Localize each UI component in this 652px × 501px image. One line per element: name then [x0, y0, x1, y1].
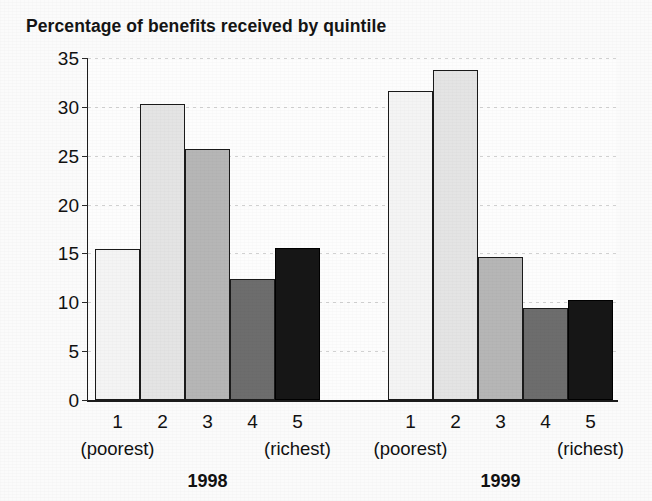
y-tick-15	[82, 253, 88, 254]
bar-1998-q5	[275, 248, 320, 400]
x-axis-category-1998-5: 5	[292, 412, 303, 431]
y-tick-35	[82, 58, 88, 59]
x-axis-line	[87, 400, 618, 402]
y-tick-20	[82, 205, 88, 206]
y-tick-25	[82, 156, 88, 157]
x-axis-note-1998-poorest: (poorest)	[80, 440, 154, 459]
y-tick-10	[82, 302, 88, 303]
x-axis-category-1999-4: 4	[540, 412, 551, 431]
x-axis-group-label-1999: 1999	[480, 472, 520, 490]
y-axis-label-20: 20	[33, 195, 79, 214]
x-axis-category-1998-4: 4	[247, 412, 258, 431]
y-axis-label-10: 10	[33, 293, 79, 312]
y-tick-30	[82, 107, 88, 108]
bar-1998-q1	[95, 249, 140, 400]
y-axis-label-25: 25	[33, 146, 79, 165]
x-axis-category-1999-3: 3	[495, 412, 506, 431]
x-axis-group-label-1998: 1998	[187, 472, 227, 490]
y-tick-0	[82, 400, 88, 401]
x-axis-category-1999-2: 2	[450, 412, 461, 431]
plot-area: 05101520253035	[88, 58, 617, 400]
bar-1999-q3	[478, 257, 523, 400]
y-axis-label-35: 35	[33, 49, 79, 68]
y-axis-label-5: 5	[33, 342, 79, 361]
x-axis-note-1999-poorest: (poorest)	[373, 440, 447, 459]
bar-1999-q4	[523, 308, 568, 400]
x-axis-note-1998-richest: (richest)	[264, 440, 331, 459]
x-axis-note-1999-richest: (richest)	[557, 440, 624, 459]
y-axis-label-0: 0	[33, 391, 79, 410]
x-axis-category-1998-3: 3	[202, 412, 213, 431]
y-tick-5	[82, 351, 88, 352]
chart-title: Percentage of benefits received by quint…	[26, 16, 386, 37]
bar-1999-q2	[433, 70, 478, 400]
x-axis-category-1999-5: 5	[585, 412, 596, 431]
y-axis-label-15: 15	[33, 244, 79, 263]
y-axis-label-30: 30	[33, 97, 79, 116]
chart-page: Percentage of benefits received by quint…	[0, 0, 652, 501]
x-axis-category-1999-1: 1	[405, 412, 416, 431]
bar-1998-q4	[230, 279, 275, 400]
bar-1999-q5	[568, 300, 613, 400]
x-axis-category-1998-1: 1	[112, 412, 123, 431]
x-axis-category-1998-2: 2	[157, 412, 168, 431]
bar-1999-q1	[388, 91, 433, 400]
bar-1998-q2	[140, 104, 185, 400]
gridline-35	[88, 58, 617, 59]
bar-1998-q3	[185, 149, 230, 400]
